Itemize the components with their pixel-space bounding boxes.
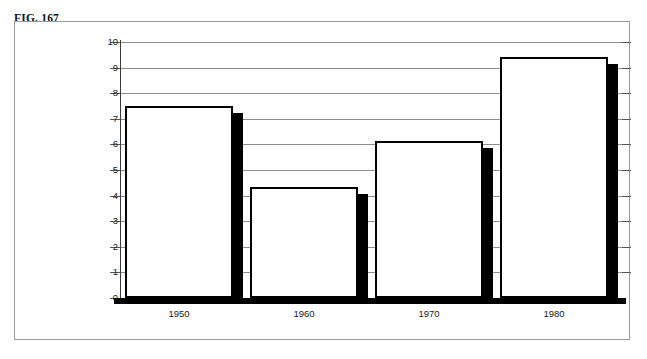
y-axis-tick-right	[622, 272, 631, 273]
x-axis-line	[114, 298, 626, 304]
y-axis-tick-right	[622, 144, 631, 145]
bar-1970[interactable]	[375, 141, 483, 298]
gridline	[120, 42, 622, 43]
y-axis-tick-right	[622, 247, 631, 248]
y-axis-tick-right	[622, 93, 631, 94]
y-axis-tick-right	[622, 119, 631, 120]
x-axis-tick-label: 1970	[418, 308, 439, 319]
bar-1980[interactable]	[500, 57, 608, 298]
y-axis-tick-label: 1	[96, 267, 118, 277]
y-axis-tick-label: 6	[96, 139, 118, 149]
y-axis-tick-right	[622, 170, 631, 171]
bar-shadow	[482, 148, 493, 298]
bar-1950[interactable]	[125, 106, 233, 298]
x-axis-tick-label: 1950	[168, 308, 189, 319]
y-axis-tick-right	[622, 196, 631, 197]
y-axis-tick-label: 3	[96, 216, 118, 226]
y-axis-tick-right	[622, 68, 631, 69]
y-axis-tick-label: 2	[96, 242, 118, 252]
y-axis-tick-labels: 012345678910	[96, 0, 118, 359]
y-axis-tick-label: 4	[96, 191, 118, 201]
bar-shadow	[607, 64, 618, 298]
bar-1960[interactable]	[250, 187, 358, 298]
y-axis-tick-right	[622, 221, 631, 222]
y-axis-tick-label: 7	[96, 114, 118, 124]
x-axis-tick-label: 1960	[293, 308, 314, 319]
y-axis-tick-label: 8	[96, 88, 118, 98]
bar-shadow	[357, 194, 368, 298]
y-axis-tick-label: 5	[96, 165, 118, 175]
y-axis-line	[120, 40, 121, 300]
bar-shadow	[232, 113, 243, 298]
y-axis-tick-right	[622, 42, 631, 43]
bar-chart: 012345678910 1950196019701980	[0, 0, 647, 359]
x-axis-tick-label: 1980	[543, 308, 564, 319]
y-axis-tick-label: 9	[96, 63, 118, 73]
y-axis-tick-label: 10	[96, 37, 118, 47]
